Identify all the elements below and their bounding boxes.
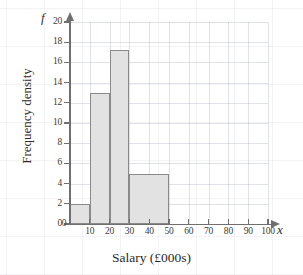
y-tick-mark	[64, 183, 70, 184]
y-tick-mark	[64, 21, 70, 22]
y-tick-label: 4	[32, 178, 62, 188]
y-tick-mark	[64, 143, 70, 144]
y-tick-mark	[64, 122, 70, 123]
y-tick-label: 20	[32, 16, 62, 26]
histogram-bar	[110, 50, 130, 224]
gridline-vertical	[248, 22, 249, 224]
x-tick-mark	[89, 219, 90, 225]
histogram-figure: 02468101214161820 0102030405060708090100…	[0, 0, 303, 275]
y-tick-mark	[64, 42, 70, 43]
y-tick-label: 14	[32, 77, 62, 87]
plot-area: 02468101214161820 0102030405060708090100	[0, 0, 303, 275]
y-axis-variable-symbol: f	[41, 10, 45, 26]
x-tick-mark	[168, 219, 169, 225]
x-axis-title: Salary (£000s)	[0, 250, 303, 266]
y-tick-mark	[64, 102, 70, 103]
y-tick-mark	[64, 203, 70, 204]
gridline-vertical	[189, 22, 190, 224]
gridline-vertical	[268, 22, 269, 224]
x-tick-label: 0	[51, 218, 77, 228]
y-axis-title: Frequency density	[19, 31, 35, 201]
y-tick-label: 18	[32, 36, 62, 46]
y-tick-label: 6	[32, 157, 62, 167]
y-tick-mark	[64, 82, 70, 83]
x-tick-mark	[109, 219, 110, 225]
y-tick-label: 10	[32, 117, 62, 127]
x-tick-mark	[129, 219, 130, 225]
y-axis-arrow-icon	[66, 12, 74, 21]
gridline-vertical	[228, 22, 229, 224]
gridline-vertical	[209, 22, 210, 224]
gridline-vertical	[169, 22, 170, 224]
x-axis-line	[69, 224, 274, 226]
y-tick-label: 16	[32, 56, 62, 66]
histogram-bar	[129, 174, 169, 225]
x-tick-mark	[149, 219, 150, 225]
y-tick-mark	[64, 62, 70, 63]
y-tick-label: 2	[32, 198, 62, 208]
x-tick-mark	[188, 219, 189, 225]
x-tick-mark	[248, 219, 249, 225]
y-tick-mark	[64, 163, 70, 164]
x-tick-mark	[228, 219, 229, 225]
x-axis-variable-symbol: x	[277, 222, 283, 238]
x-tick-mark	[208, 219, 209, 225]
y-tick-label: 8	[32, 137, 62, 147]
histogram-bar	[90, 93, 110, 224]
x-tick-mark	[267, 219, 268, 225]
y-tick-label: 12	[32, 97, 62, 107]
